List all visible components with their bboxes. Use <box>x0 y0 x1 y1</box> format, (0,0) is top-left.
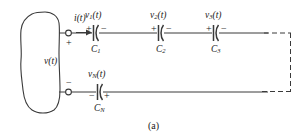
capacitor-c2-name-label: C2 <box>156 45 166 55</box>
capacitor-c1-name-label: C1 <box>91 45 101 55</box>
capacitor-c3-left-sign: + <box>206 24 212 34</box>
capacitor-c3-name-label: C3 <box>211 45 221 55</box>
c2-voltage-arg: (t) <box>157 10 166 20</box>
c2-name-subscript: 2 <box>162 47 165 54</box>
capacitor-cn-name-label: CN <box>94 104 105 114</box>
capacitor-c1-voltage-label: v1(t) <box>85 11 101 21</box>
capacitor-cn-voltage-label: vN(t) <box>88 70 106 80</box>
capacitor-c2-voltage-label: v2(t) <box>150 11 166 21</box>
capacitor-cn-right-sign: + <box>104 91 110 101</box>
capacitor-c1-left-sign: + <box>86 24 92 34</box>
current-label: i(t) <box>74 14 86 24</box>
capacitor-c1-symbol <box>94 25 99 41</box>
capacitor-c2-left-sign: + <box>151 24 157 34</box>
figure-caption: (a) <box>148 121 159 131</box>
c3-voltage-arg: (t) <box>212 10 221 20</box>
c1-name-subscript: 1 <box>97 47 100 54</box>
capacitor-c3-symbol <box>214 25 219 41</box>
source-bottom-terminal-sign: − <box>66 78 72 88</box>
top-terminal-dot <box>66 30 72 36</box>
capacitor-c2-right-sign: − <box>166 24 172 34</box>
source-voltage-label: v(t) <box>44 57 57 67</box>
bottom-terminal-dot <box>66 89 72 95</box>
capacitor-c1-right-sign: − <box>101 24 107 34</box>
capacitor-cn-left-sign: − <box>89 91 95 101</box>
source-top-terminal-sign: + <box>66 38 72 48</box>
capacitor-cn-symbol <box>98 84 103 100</box>
c1-voltage-arg: (t) <box>92 10 101 20</box>
circuit-figure: v(t) + − i(t) v1(t) + − C1 v2(t) + − C2 … <box>0 0 308 138</box>
capacitor-c3-right-sign: − <box>221 24 227 34</box>
capacitor-c2-symbol <box>159 25 164 41</box>
capacitor-c3-voltage-label: v3(t) <box>205 11 221 21</box>
cn-name-subscript: N <box>100 106 104 113</box>
cn-voltage-arg: (t) <box>97 69 106 79</box>
c3-name-subscript: 3 <box>217 47 220 54</box>
